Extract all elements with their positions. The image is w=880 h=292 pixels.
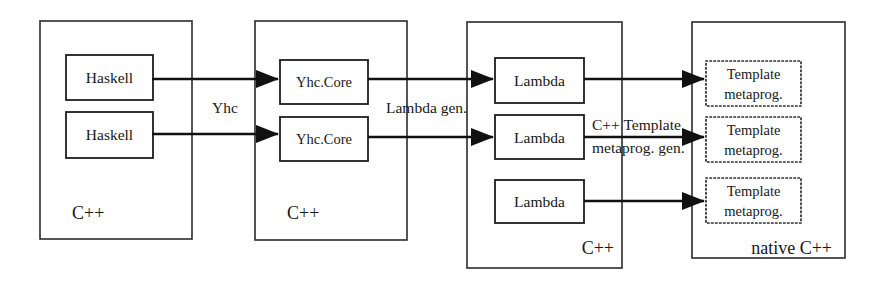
node-template-1-label-line1: Template bbox=[727, 66, 781, 82]
node-yhccore-1-label: Yhc.Core bbox=[296, 74, 352, 90]
node-template-1[interactable]: Template metaprog. bbox=[706, 61, 801, 106]
node-yhccore-1[interactable]: Yhc.Core bbox=[280, 60, 368, 104]
zone-source: C++ Haskell Haskell bbox=[40, 21, 192, 239]
node-template-3[interactable]: Template metaprog. bbox=[706, 178, 801, 223]
node-template-3-label-line1: Template bbox=[727, 183, 781, 199]
node-lambda-1[interactable]: Lambda bbox=[495, 58, 584, 103]
node-lambda-2-label: Lambda bbox=[514, 129, 565, 146]
node-template-2-label-line2: metaprog. bbox=[724, 142, 782, 158]
node-haskell-1-label: Haskell bbox=[86, 69, 133, 86]
node-template-1-label-line2: metaprog. bbox=[724, 86, 782, 102]
zone-native-label: native C++ bbox=[751, 238, 832, 258]
node-lambda-2[interactable]: Lambda bbox=[495, 115, 584, 159]
zone-lambda-label: C++ bbox=[582, 238, 614, 258]
node-lambda-3-label: Lambda bbox=[514, 193, 565, 210]
node-template-2[interactable]: Template metaprog. bbox=[706, 117, 801, 162]
node-template-3-label-line2: metaprog. bbox=[724, 203, 782, 219]
zone-yhccore: C++ Yhc.Core Yhc.Core bbox=[255, 21, 407, 240]
edge-label-lambda-gen: Lambda gen. bbox=[386, 99, 467, 116]
diagram-canvas: C++ Haskell Haskell C++ Yhc.Core Yhc.Cor… bbox=[0, 0, 880, 292]
node-yhccore-2-label: Yhc.Core bbox=[296, 131, 352, 147]
node-template-2-label-line1: Template bbox=[727, 122, 781, 138]
edge-label-tmp-gen-line1: C++ Template bbox=[592, 116, 681, 133]
node-haskell-2-label: Haskell bbox=[86, 126, 133, 143]
node-lambda-1-label: Lambda bbox=[514, 72, 565, 89]
node-yhccore-2[interactable]: Yhc.Core bbox=[280, 117, 368, 161]
pipeline-diagram: C++ Haskell Haskell C++ Yhc.Core Yhc.Cor… bbox=[0, 0, 880, 292]
zone-native: native C++ Template metaprog. Template m… bbox=[692, 22, 845, 258]
zone-source-label: C++ bbox=[72, 203, 104, 223]
zone-yhccore-label: C++ bbox=[287, 203, 319, 223]
node-haskell-2[interactable]: Haskell bbox=[66, 112, 153, 158]
node-haskell-1[interactable]: Haskell bbox=[66, 55, 153, 100]
node-lambda-3[interactable]: Lambda bbox=[495, 180, 584, 223]
edge-label-yhc: Yhc bbox=[212, 99, 238, 116]
edge-label-tmp-gen-line2: metaprog. gen. bbox=[592, 139, 685, 156]
